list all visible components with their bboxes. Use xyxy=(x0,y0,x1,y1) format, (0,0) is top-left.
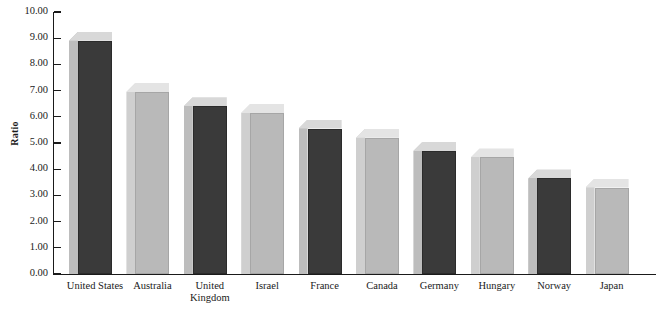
x-axis-label: France xyxy=(293,280,357,292)
bar-front-face xyxy=(250,113,284,274)
bar-front-face xyxy=(365,138,399,274)
bar-top-face xyxy=(69,32,112,41)
x-axis-label: Hungary xyxy=(465,280,529,292)
bar-side-face xyxy=(241,104,250,274)
x-axis-label: Germany xyxy=(407,280,471,292)
bar-top-face xyxy=(126,83,169,92)
bar-top-face xyxy=(528,169,571,178)
bar-front-face xyxy=(193,106,227,274)
bar-side-face xyxy=(528,169,537,274)
bar-chart: Ratio 10.009.008.007.006.005.004.003.002… xyxy=(0,0,668,309)
bar-top-face xyxy=(586,179,629,188)
plot-area xyxy=(53,12,656,274)
y-tick-label: 1.00 xyxy=(4,242,48,253)
bar-side-face xyxy=(586,179,595,274)
bar xyxy=(78,41,112,274)
bar-front-face xyxy=(480,157,514,274)
bar-side-face xyxy=(356,129,365,274)
bar-front-face xyxy=(135,92,169,274)
bar-front-face xyxy=(595,188,629,274)
bar-side-face xyxy=(184,97,193,274)
x-axis-label: United Kingdom xyxy=(178,280,242,304)
bar xyxy=(595,188,629,274)
x-axis-label: United States xyxy=(63,280,127,292)
y-tick-label: 3.00 xyxy=(4,189,48,200)
y-tick-label: 5.00 xyxy=(4,137,48,148)
bar-front-face xyxy=(537,178,571,274)
bar-top-face xyxy=(184,97,227,106)
y-tick-label: 0.00 xyxy=(4,268,48,279)
bar xyxy=(537,178,571,274)
bar xyxy=(308,129,342,274)
y-tick-label: 10.00 xyxy=(4,6,48,17)
bar xyxy=(365,138,399,274)
y-tick-label: 4.00 xyxy=(4,163,48,174)
x-axis-line xyxy=(53,274,656,275)
y-tick-label: 8.00 xyxy=(4,58,48,69)
bar xyxy=(193,106,227,274)
y-tick-label: 9.00 xyxy=(4,32,48,43)
x-axis-label: Norway xyxy=(522,280,586,292)
bar xyxy=(250,113,284,274)
bar-side-face xyxy=(471,148,480,274)
bar-top-face xyxy=(241,104,284,113)
x-axis-label: Japan xyxy=(580,280,644,292)
bar-top-face xyxy=(413,142,456,151)
x-axis-label: Israel xyxy=(235,280,299,292)
bar-front-face xyxy=(422,151,456,274)
bar-side-face xyxy=(413,142,422,274)
bar-top-face xyxy=(471,148,514,157)
y-tick-label: 7.00 xyxy=(4,85,48,96)
bar xyxy=(480,157,514,274)
bar-side-face xyxy=(69,32,78,274)
bar-front-face xyxy=(308,129,342,274)
bar-top-face xyxy=(299,120,342,129)
y-tick-label: 6.00 xyxy=(4,111,48,122)
bar-top-face xyxy=(356,129,399,138)
bar-front-face xyxy=(78,41,112,274)
bar xyxy=(135,92,169,274)
bar-side-face xyxy=(299,120,308,274)
bar xyxy=(422,151,456,274)
y-tick-label: 2.00 xyxy=(4,216,48,227)
x-axis-label: Canada xyxy=(350,280,414,292)
x-axis-label: Australia xyxy=(120,280,184,292)
bar-side-face xyxy=(126,83,135,274)
